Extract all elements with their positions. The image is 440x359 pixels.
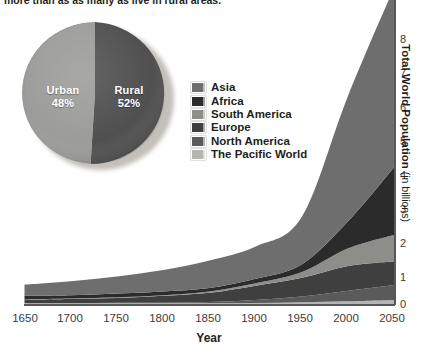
- area-chart-svg: [24, 0, 395, 305]
- x-tick-1800: 1800: [142, 312, 182, 324]
- x-tick-1850: 1850: [188, 312, 228, 324]
- y-axis-title: Total World Population (in billions): [400, 44, 412, 274]
- x-tick-2050: 2050: [372, 312, 412, 324]
- x-tick-1750: 1750: [96, 312, 136, 324]
- x-axis-line: [24, 304, 395, 306]
- world-population-area-chart: [24, 0, 395, 305]
- population-figure: more than as as many as live in rural ar…: [0, 0, 440, 359]
- y-axis-line: [394, 0, 396, 305]
- x-tick-1700: 1700: [50, 312, 90, 324]
- x-tick-1950: 1950: [280, 312, 320, 324]
- y-axis-title-unit: (in billions): [400, 169, 412, 222]
- y-tick-0: 0: [400, 299, 406, 310]
- x-tick-1650: 1650: [5, 312, 45, 324]
- y-axis-title-main: Total World Population: [400, 44, 412, 169]
- x-tick-1900: 1900: [234, 312, 274, 324]
- x-tick-2000: 2000: [326, 312, 366, 324]
- x-axis-title: Year: [0, 331, 418, 345]
